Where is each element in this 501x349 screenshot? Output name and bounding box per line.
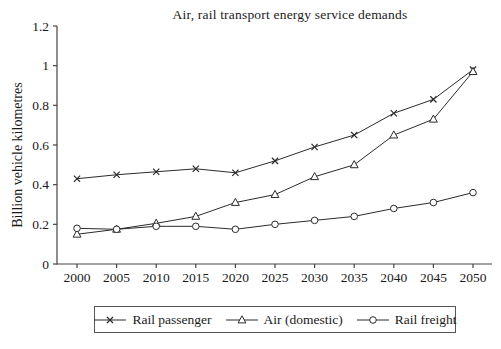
line-chart-figure: Air, rail transport energy service deman… — [0, 0, 501, 349]
triangle-marker-icon — [238, 315, 246, 322]
circle-marker-icon — [369, 316, 376, 323]
y-tick-label: 0.6 — [32, 138, 49, 153]
y-tick-label: 1.2 — [32, 19, 49, 34]
legend: Rail passenger Air (domestic) Rail freig… — [94, 306, 456, 333]
x-marker-icon — [430, 96, 436, 102]
x-tick-label: 2005 — [103, 270, 130, 285]
y-tick-label: 0 — [42, 257, 49, 272]
circle-marker-icon — [356, 314, 390, 326]
x-tick-label: 2030 — [301, 270, 328, 285]
y-tick-label: 0.8 — [32, 98, 49, 113]
x-tick-label: 2050 — [460, 270, 487, 285]
x-tick-label: 2000 — [64, 270, 91, 285]
x-tick-label: 2045 — [420, 270, 447, 285]
circle-marker-icon — [193, 223, 200, 230]
circle-marker-icon — [272, 221, 279, 228]
triangle-marker-icon — [271, 190, 279, 197]
triangle-marker-icon — [350, 161, 358, 168]
legend-item-air-domestic: Air (domestic) — [225, 312, 343, 328]
x-marker-icon — [351, 132, 357, 138]
plot-area: 00.20.40.60.811.220002005201020152020202… — [0, 0, 501, 302]
legend-label-rail-passenger: Rail passenger — [132, 312, 211, 328]
x-tick-label: 2015 — [182, 270, 209, 285]
y-tick-label: 0.4 — [32, 177, 49, 192]
series-rail-passenger — [77, 70, 473, 179]
series-air-domestic — [77, 72, 473, 235]
circle-marker-icon — [391, 205, 398, 212]
legend-item-rail-passenger: Rail passenger — [93, 312, 211, 328]
x-tick-label: 2025 — [262, 270, 289, 285]
triangle-marker-icon — [225, 314, 259, 326]
legend-label-rail-freight: Rail freight — [395, 312, 457, 328]
circle-marker-icon — [430, 199, 437, 206]
circle-marker-icon — [311, 217, 318, 224]
circle-marker-icon — [351, 213, 358, 220]
circle-marker-icon — [470, 189, 477, 196]
circle-marker-icon — [153, 223, 160, 230]
y-tick-label: 0.2 — [32, 217, 49, 232]
legend-item-rail-freight: Rail freight — [356, 312, 457, 328]
x-marker-icon — [93, 314, 127, 326]
circle-marker-icon — [74, 225, 81, 232]
y-tick-label: 1 — [42, 58, 49, 73]
x-tick-label: 2020 — [222, 270, 249, 285]
x-tick-label: 2010 — [143, 270, 170, 285]
x-tick-label: 2040 — [380, 270, 407, 285]
x-tick-label: 2035 — [341, 270, 368, 285]
circle-marker-icon — [113, 226, 120, 233]
x-marker-icon — [391, 110, 397, 116]
circle-marker-icon — [232, 226, 239, 233]
triangle-marker-icon — [469, 67, 477, 74]
x-marker-icon — [272, 158, 278, 164]
x-marker-icon — [312, 144, 318, 150]
legend-label-air-domestic: Air (domestic) — [264, 312, 343, 328]
